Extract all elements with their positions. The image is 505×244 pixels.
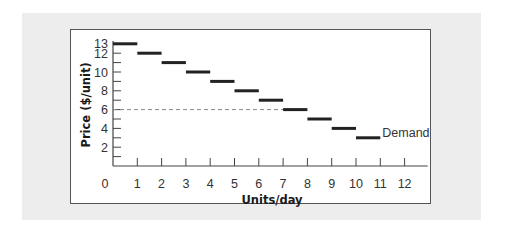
x-tick-label: 10 bbox=[349, 177, 363, 191]
y-tick-label: 4 bbox=[101, 122, 108, 136]
y-tick-label: 13 bbox=[94, 37, 108, 51]
y-tick-label: 6 bbox=[101, 103, 108, 117]
origin-label: 0 bbox=[102, 177, 109, 191]
x-axis: 123456789101112 bbox=[113, 158, 428, 191]
x-tick-label: 9 bbox=[328, 177, 335, 191]
demand-step-chart: 2468101213 123456789101112 Demand Units/… bbox=[0, 0, 505, 244]
demand-segments bbox=[113, 44, 380, 138]
x-tick-label: 11 bbox=[374, 177, 387, 191]
x-tick-label: 5 bbox=[231, 177, 238, 191]
x-tick-label: 6 bbox=[255, 177, 262, 191]
x-tick-label: 3 bbox=[182, 177, 189, 191]
y-tick-label: 2 bbox=[101, 141, 108, 155]
x-tick-label: 4 bbox=[207, 177, 214, 191]
x-tick-label: 12 bbox=[398, 177, 412, 191]
x-tick-label: 7 bbox=[280, 177, 287, 191]
y-axis: 2468101213 bbox=[94, 37, 121, 166]
x-tick-label: 2 bbox=[158, 177, 165, 191]
y-tick-label: 10 bbox=[94, 66, 108, 80]
x-axis-title: Units/day bbox=[241, 193, 303, 207]
demand-label: Demand bbox=[382, 126, 429, 140]
y-tick-label: 8 bbox=[101, 84, 108, 98]
x-tick-label: 1 bbox=[134, 177, 141, 191]
x-tick-label: 8 bbox=[304, 177, 311, 191]
y-axis-title: Price ($/unit) bbox=[79, 62, 93, 147]
